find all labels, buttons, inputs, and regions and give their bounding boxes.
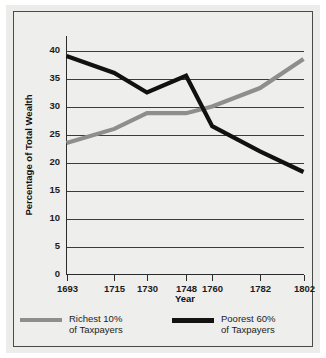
- series-line-richest-10-percent: [67, 59, 304, 143]
- y-tick-label-30: 30: [49, 100, 60, 111]
- legend-entry-poorest: Poorest 60% of Taxpayers: [172, 313, 308, 335]
- legend-label-poorest-line1: Poorest 60%: [221, 313, 275, 324]
- x-tick-label-1715: 1715: [104, 283, 126, 294]
- legend-label-richest-line1: Richest 10%: [69, 313, 122, 324]
- x-tick-label-1730: 1730: [137, 283, 158, 294]
- x-tick-label-1693: 1693: [57, 283, 78, 294]
- y-tick-label-35: 35: [49, 72, 60, 83]
- x-tick-label-1760: 1760: [202, 283, 223, 294]
- legend-label-poorest-line2: of Taxpayers: [221, 324, 275, 335]
- y-tick-label-10: 10: [49, 212, 60, 223]
- x-axis-title: Year: [175, 293, 195, 304]
- y-tick-label-5: 5: [55, 240, 61, 251]
- y-tick-labels-group: 0510152025303540: [49, 44, 60, 279]
- chart-legend: Richest 10% of Taxpayers Poorest 60% of …: [20, 313, 308, 347]
- y-tick-label-40: 40: [49, 44, 60, 55]
- legend-label-richest: Richest 10% of Taxpayers: [69, 313, 123, 335]
- y-tick-label-25: 25: [49, 128, 60, 139]
- y-tick-label-20: 20: [49, 156, 60, 167]
- legend-label-poorest: Poorest 60% of Taxpayers: [221, 313, 275, 335]
- legend-swatch-black-line: [172, 318, 214, 323]
- x-tickmarks-group: [68, 275, 305, 281]
- y-tick-label-15: 15: [49, 184, 60, 195]
- x-tick-label-1748: 1748: [176, 283, 197, 294]
- legend-swatch-gray-line: [20, 318, 62, 322]
- plot-area: 0510152025303540 16931715173017481760178…: [0, 0, 326, 358]
- y-tick-label-0: 0: [55, 268, 60, 279]
- chart-figure: 0510152025303540 16931715173017481760178…: [0, 0, 326, 358]
- legend-entry-richest: Richest 10% of Taxpayers: [20, 313, 172, 335]
- y-axis-title: Percentage of Total Wealth: [23, 94, 34, 215]
- x-tick-label-1802: 1802: [294, 283, 315, 294]
- x-tick-label-1782: 1782: [250, 283, 271, 294]
- line-chart-svg: 0510152025303540 16931715173017481760178…: [0, 0, 326, 358]
- legend-label-richest-line2: of Taxpayers: [69, 324, 123, 335]
- x-tick-labels-group: 1693171517301748176017821802: [57, 283, 315, 294]
